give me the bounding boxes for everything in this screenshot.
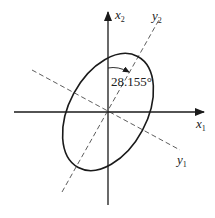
y2-axis-label: y2 [150,8,162,25]
x2-axis-label: x2 [114,7,125,24]
ellipse-axes-diagram: x2 y2 x1 y1 28.155° [0,0,215,218]
y1-axis-label: y1 [175,152,187,169]
x1-axis-label: x1 [195,116,206,133]
angle-value-label: 28.155° [111,74,152,89]
y1-principal-axis [32,70,180,150]
angle-arc-arrow [108,68,129,73]
